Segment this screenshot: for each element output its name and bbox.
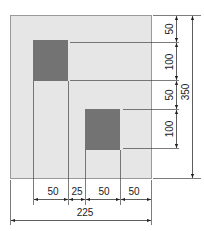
vertical-dimension-chain: 50 100 50 100 <box>164 16 177 148</box>
dim-label-h4: 50 <box>128 186 140 197</box>
dim-label-v3: 50 <box>164 89 175 101</box>
overall-width-label: 225 <box>77 207 94 218</box>
dim-label-h1: 50 <box>47 186 59 197</box>
overall-height-label: 350 <box>180 83 191 100</box>
lower-right-square <box>85 109 120 150</box>
dim-label-v1: 50 <box>164 23 175 35</box>
overall-height-dimension: 350 <box>180 16 193 178</box>
upper-left-square <box>33 40 68 81</box>
horizontal-dimension-chain: 50 25 50 50 <box>34 186 151 200</box>
plate <box>11 16 152 179</box>
overall-width-dimension: 225 <box>11 207 151 221</box>
technical-drawing: 50 25 50 50 225 50 100 50 100 350 <box>0 0 204 231</box>
dim-label-h2: 25 <box>71 186 83 197</box>
dim-label-v2: 100 <box>164 53 175 70</box>
dim-label-h3: 50 <box>98 186 110 197</box>
dim-label-v4: 100 <box>164 120 175 137</box>
